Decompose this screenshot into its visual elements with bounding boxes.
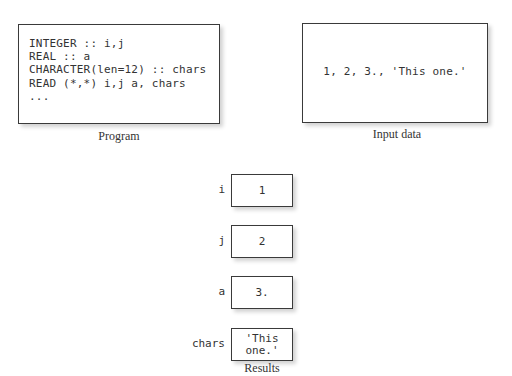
- var-box-j: 2: [231, 225, 293, 258]
- input-data-caption: Input data: [345, 127, 449, 142]
- var-value-i: 1: [259, 185, 266, 197]
- var-value-chars: 'This one.': [245, 333, 278, 357]
- program-code: INTEGER :: i,j REAL :: a CHARACTER(len=1…: [29, 37, 206, 103]
- var-box-a: 3.: [231, 276, 293, 309]
- var-value-j: 2: [259, 236, 266, 248]
- program-box: INTEGER :: i,j REAL :: a CHARACTER(len=1…: [18, 24, 220, 124]
- var-label-i: i: [165, 183, 225, 196]
- results-caption: Results: [212, 361, 312, 376]
- var-label-j: j: [165, 234, 225, 247]
- var-label-a: a: [165, 285, 225, 298]
- var-box-chars: 'This one.': [231, 328, 293, 361]
- var-value-a: 3.: [255, 287, 268, 299]
- input-data-text: 1, 2, 3., 'This one.': [303, 65, 487, 78]
- var-box-i: 1: [231, 174, 293, 207]
- input-data-box: 1, 2, 3., 'This one.': [302, 23, 488, 123]
- program-caption: Program: [69, 129, 169, 144]
- var-label-chars: chars: [165, 337, 225, 350]
